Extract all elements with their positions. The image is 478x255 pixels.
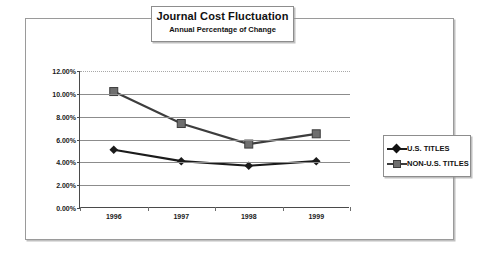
chart-subtitle: Annual Percentage of Change	[152, 24, 293, 35]
gridline	[80, 71, 350, 72]
y-axis-tick	[77, 94, 80, 95]
gridline	[80, 94, 350, 95]
x-axis-tick	[148, 207, 149, 211]
chart-frame: 0.00%2.00%4.00%6.00%8.00%10.00%12.00%199…	[25, 18, 454, 240]
y-axis-tick-label: 2.00%	[56, 182, 76, 189]
y-axis-tick-label: 12.00%	[52, 68, 76, 75]
legend-label-us-titles: U.S. TITLES	[407, 144, 450, 153]
y-axis-tick	[77, 140, 80, 141]
legend-item-non-us-titles[interactable]: NON-U.S. TITLES	[387, 156, 467, 171]
y-axis-tick	[77, 71, 80, 72]
plot-area: 0.00%2.00%4.00%6.00%8.00%10.00%12.00%199…	[79, 71, 349, 208]
y-axis-tick	[77, 162, 80, 163]
legend-label-non-us-titles: NON-U.S. TITLES	[407, 159, 469, 168]
square-marker-icon	[387, 158, 407, 169]
y-axis-tick	[77, 185, 80, 186]
diamond-data-point	[312, 157, 321, 166]
y-axis-tick-label: 8.00%	[56, 113, 76, 120]
gridline	[80, 185, 350, 186]
gridline	[80, 117, 350, 118]
y-axis-tick-label: 4.00%	[56, 159, 76, 166]
y-axis-tick-label: 10.00%	[52, 90, 76, 97]
series-line	[114, 150, 317, 166]
chart-title: Journal Cost Fluctuation	[152, 10, 293, 23]
diamond-data-point	[177, 157, 186, 166]
x-axis-tick-label: 1996	[106, 213, 122, 220]
x-axis-tick-label: 1998	[241, 213, 257, 220]
chart-title-box: Journal Cost Fluctuation Annual Percenta…	[151, 6, 294, 42]
x-axis-tick	[80, 207, 81, 211]
chart-legend: U.S. TITLES NON-U.S. TITLES	[383, 135, 471, 177]
series-line	[114, 92, 317, 145]
x-axis-tick	[350, 207, 351, 211]
square-data-point	[312, 130, 320, 138]
gridline	[80, 140, 350, 141]
x-axis-tick	[283, 207, 284, 211]
chart-screenshot: 0.00%2.00%4.00%6.00%8.00%10.00%12.00%199…	[0, 0, 478, 255]
diamond-marker-icon	[387, 143, 407, 154]
x-axis-tick-label: 1997	[173, 213, 189, 220]
square-data-point	[245, 140, 253, 148]
diamond-data-point	[109, 145, 118, 154]
gridline	[80, 162, 350, 163]
y-axis-tick-label: 0.00%	[56, 205, 76, 212]
x-axis-tick	[215, 207, 216, 211]
legend-item-us-titles[interactable]: U.S. TITLES	[387, 141, 467, 156]
x-axis-tick-label: 1999	[308, 213, 324, 220]
square-data-point	[177, 120, 185, 128]
y-axis-tick-label: 6.00%	[56, 136, 76, 143]
y-axis-tick	[77, 117, 80, 118]
